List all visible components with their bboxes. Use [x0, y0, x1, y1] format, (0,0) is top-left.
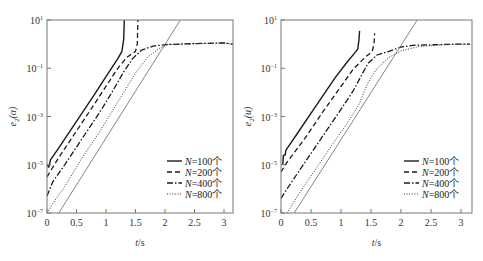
series-line-thin-solid [294, 20, 417, 213]
series-line-thin-solid [59, 20, 181, 213]
legend-label: N=100个 [184, 156, 222, 167]
x-tick-label: 1.5 [129, 217, 142, 228]
legend-label: N=400个 [421, 178, 459, 189]
x-tick-label: 3 [222, 217, 227, 228]
y-tick-label: 10−7 [27, 208, 43, 219]
legend: N=100个N=200个N=400个N=800个 [404, 156, 459, 200]
x-tick-label: 0 [279, 217, 284, 228]
chart-right-panel: 00.511.522.5310110−110−310−510−7t/se2(u)… [241, 0, 482, 261]
x-tick-label: 1.5 [365, 217, 378, 228]
legend-label: N=800个 [421, 189, 459, 200]
chart-left-panel: 00.511.522.5310110−110−310−510−7t/se2(α)… [0, 0, 241, 261]
x-tick-label: 0.5 [305, 217, 318, 228]
x-tick-label: 2.5 [188, 217, 201, 228]
y-tick-label: 10−5 [27, 160, 43, 171]
y-tick-label: 101 [264, 15, 277, 26]
legend: N=100个N=200个N=400个N=800个 [167, 156, 222, 200]
y-tick-label: 10−5 [261, 160, 277, 171]
chart-right-svg: 00.511.522.5310110−110−310−510−7t/se2(u)… [241, 0, 483, 261]
legend-label: N=100个 [421, 156, 459, 167]
chart-left-svg: 00.511.522.5310110−110−310−510−7t/se2(α)… [0, 0, 241, 261]
y-tick-label: 10−1 [261, 63, 277, 74]
x-tick-label: 0.5 [70, 217, 83, 228]
x-tick-label: 2.5 [425, 217, 438, 228]
x-tick-label: 0 [45, 217, 50, 228]
y-axis-title: e2(u) [242, 106, 256, 126]
series-line-dashed [281, 33, 375, 172]
y-tick-label: 101 [30, 15, 43, 26]
y-tick-label: 10−3 [261, 112, 277, 123]
y-tick-label: 10−3 [27, 112, 43, 123]
legend-label: N=200个 [421, 167, 459, 178]
x-tick-label: 1 [104, 217, 109, 228]
legend-label: N=800个 [184, 189, 222, 200]
y-axis-title: e2(α) [7, 106, 21, 127]
legend-label: N=400个 [184, 178, 222, 189]
x-tick-label: 2 [399, 217, 404, 228]
series-line-solid [47, 20, 124, 167]
x-tick-label: 1 [339, 217, 344, 228]
x-tick-label: 3 [459, 217, 464, 228]
legend-label: N=200个 [184, 167, 222, 178]
x-tick-label: 2 [163, 217, 168, 228]
y-tick-label: 10−1 [27, 63, 43, 74]
y-tick-label: 10−7 [261, 208, 277, 219]
x-axis-title: t/s [372, 237, 382, 248]
x-axis-title: t/s [135, 237, 145, 248]
